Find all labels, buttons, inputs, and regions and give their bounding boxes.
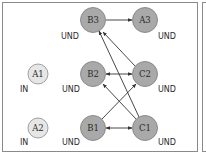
node-label-C2: C2 — [139, 69, 151, 79]
state-label-C2: UND — [158, 85, 176, 94]
node-B1[interactable]: B1 — [81, 116, 106, 141]
node-C1[interactable]: C1 — [133, 116, 158, 141]
argument-graph: A1 IN A2 IN B3 UND A3 UND B2 UND C2 UND … — [0, 0, 206, 153]
node-A3[interactable]: A3 — [133, 8, 158, 33]
state-label-A3: UND — [158, 32, 176, 41]
state-label-B3: UND — [61, 32, 79, 41]
node-A1[interactable]: A1 — [28, 64, 48, 84]
node-label-C1: C1 — [139, 123, 151, 133]
state-label-C1: UND — [158, 138, 176, 147]
node-A2[interactable]: A2 — [28, 118, 48, 138]
node-B2[interactable]: B2 — [81, 62, 106, 87]
node-B3[interactable]: B3 — [81, 8, 106, 33]
node-label-B1: B1 — [87, 123, 99, 133]
state-label-B1: UND — [62, 138, 80, 147]
node-label-B2: B2 — [87, 69, 99, 79]
state-label-B2: UND — [62, 85, 80, 94]
node-label-A2: A2 — [31, 123, 44, 133]
state-label-A2: IN — [20, 138, 28, 147]
node-C2[interactable]: C2 — [133, 62, 158, 87]
state-label-A1: IN — [20, 85, 28, 94]
node-label-A1: A1 — [31, 69, 44, 79]
node-label-B3: B3 — [87, 15, 99, 25]
node-label-A3: A3 — [138, 15, 151, 25]
